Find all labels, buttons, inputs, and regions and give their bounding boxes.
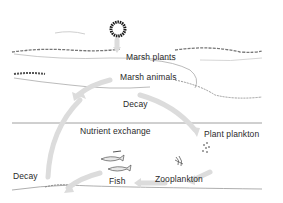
label-decay-lower: Decay: [13, 172, 38, 181]
label-zooplankton: Zooplankton: [155, 175, 203, 184]
plant-plankton-icon: [202, 142, 210, 153]
label-plant-plankton: Plant plankton: [204, 130, 259, 139]
cycle-arrows: [48, 40, 210, 188]
label-marsh-animals: Marsh animals: [120, 73, 177, 82]
label-fish: Fish: [109, 177, 125, 186]
fish-icon: [101, 151, 131, 171]
sun-icon: [111, 22, 125, 36]
label-decay-upper: Decay: [123, 100, 148, 109]
label-nutrient-exchange: Nutrient exchange: [80, 127, 151, 136]
label-marsh-plants: Marsh plants: [126, 53, 176, 62]
arrow-heads: [64, 47, 200, 193]
zooplankton-icon: [175, 156, 183, 166]
marsh-nutrient-cycle-diagram: Marsh plants Marsh animals Decay Nutrien…: [0, 0, 283, 203]
